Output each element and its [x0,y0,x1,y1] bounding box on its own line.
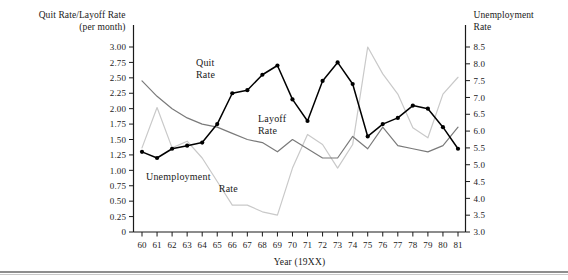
right-tick-label: 6.5 [474,109,486,119]
data-point [396,116,400,120]
right-axis-title: Rate [474,22,492,32]
left-tick-label: 1.25 [110,150,127,160]
data-point [441,125,445,129]
data-point [245,88,249,92]
right-tick-label: 8.0 [474,59,486,69]
x-tick-label: 67 [243,240,253,250]
layoff-rate-label: Rate [258,125,277,136]
data-point [215,122,219,126]
data-point [260,73,264,77]
x-tick-label: 71 [303,240,312,250]
left-tick-label: 0 [121,227,126,237]
chart-figure: 00.250.500.751.001.251.501.752.002.252.5… [0,0,568,280]
left-tick-label: 2.75 [110,58,127,68]
x-tick-label: 81 [453,240,462,250]
unemployment-rate-label: Unemployment [146,171,211,182]
data-point [351,82,355,86]
left-tick-label: 0.50 [110,196,127,206]
data-point [290,97,294,101]
x-tick-label: 78 [408,240,418,250]
left-axis-title: Quit Rate/Layoff Rate [39,10,126,20]
data-point [336,60,340,64]
x-axis-title: Year (19XX) [274,257,326,268]
quit-rate-label: Rate [196,69,215,80]
data-point [230,91,234,95]
data-point [426,107,430,111]
left-tick-label: 2.50 [110,73,127,83]
x-tick-label: 79 [423,240,433,250]
left-axis-title: (per month) [79,22,125,33]
data-point [155,156,159,160]
x-tick-label: 63 [183,240,193,250]
left-tick-label: 2.25 [110,88,127,98]
x-tick-label: 75 [363,240,373,250]
data-point [200,140,204,144]
left-tick-label: 1.00 [110,166,127,176]
x-tick-label: 73 [333,240,343,250]
data-point [140,150,144,154]
left-tick-label: 1.50 [110,135,127,145]
data-point [456,147,460,151]
right-axis-title: Unemployment [474,10,535,20]
left-tick-label: 0.25 [110,212,127,222]
x-tick-label: 60 [137,240,147,250]
right-tick-label: 7.0 [474,93,486,103]
right-tick-label: 4.0 [474,194,486,204]
right-tick-label: 7.5 [474,76,486,86]
x-tick-label: 80 [438,240,448,250]
x-tick-label: 64 [198,240,208,250]
right-tick-label: 8.5 [474,42,486,52]
x-tick-label: 66 [228,240,238,250]
x-tick-label: 76 [378,240,388,250]
right-tick-label: 4.5 [474,177,486,187]
right-tick-label: 3.5 [474,210,486,220]
right-tick-label: 3.0 [474,227,486,237]
data-point [170,147,174,151]
data-point [366,134,370,138]
right-tick-label: 5.5 [474,143,486,153]
x-tick-label: 74 [348,240,358,250]
left-tick-label: 0.75 [110,181,127,191]
data-point [381,122,385,126]
x-tick-label: 69 [273,240,283,250]
series-quit-rate [140,60,460,160]
right-tick-label: 5.0 [474,160,486,170]
left-tick-label: 3.00 [110,42,127,52]
x-tick-label: 62 [167,240,176,250]
series-layoff-rate [142,81,458,158]
x-tick-label: 61 [152,240,161,250]
series-unemployment-rate [142,47,458,215]
series-line-unemployment-rate [142,47,458,215]
unemployment-rate-label: Rate [219,183,238,194]
x-tick-label: 68 [258,240,268,250]
x-tick-label: 72 [318,240,327,250]
right-tick-label: 6.0 [474,126,486,136]
series-line-layoff-rate [142,81,458,158]
data-point [275,63,279,67]
chart-svg: 00.250.500.751.001.251.501.752.002.252.5… [0,0,568,280]
data-point [411,103,415,107]
footer-rule-secondary [0,274,568,275]
x-tick-label: 70 [288,240,298,250]
data-point [320,79,324,83]
data-point [305,119,309,123]
x-tick-label: 77 [393,240,403,250]
footer-rule [0,271,568,273]
x-tick-label: 65 [213,240,223,250]
data-point [185,144,189,148]
layoff-rate-label: Layoff [258,113,287,124]
quit-rate-label: Quit [196,57,215,68]
left-tick-label: 2.00 [110,104,127,114]
left-tick-label: 1.75 [110,119,127,129]
